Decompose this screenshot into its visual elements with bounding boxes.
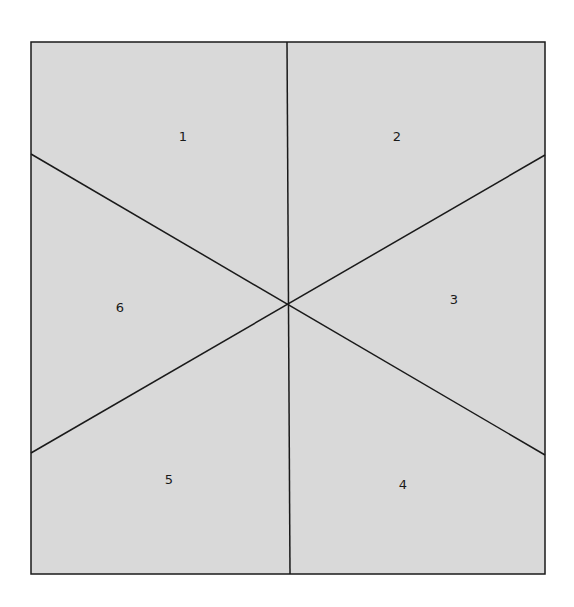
region-label-3: 3 — [450, 293, 458, 306]
region-label-2: 2 — [393, 130, 401, 143]
diagram-canvas — [0, 0, 574, 607]
region-label-5: 5 — [165, 473, 173, 486]
region-label-4: 4 — [399, 478, 407, 491]
region-label-6: 6 — [116, 301, 124, 314]
hexpartition-diagram: 1 2 3 4 5 6 — [0, 0, 574, 607]
region-label-1: 1 — [179, 130, 187, 143]
